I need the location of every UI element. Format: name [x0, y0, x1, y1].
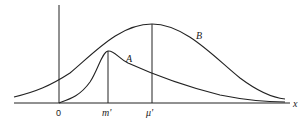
- curve-a: [59, 51, 285, 103]
- curve-b-label: B: [196, 30, 202, 41]
- distribution-diagram: B A 0 m' μ' x: [0, 0, 305, 128]
- curve-a-label: A: [125, 53, 133, 64]
- x-axis-label: x: [292, 98, 298, 109]
- mu-prime-label: μ': [145, 107, 154, 118]
- origin-label: 0: [56, 108, 61, 118]
- m-prime-label: m': [102, 107, 112, 118]
- curve-b: [14, 24, 285, 99]
